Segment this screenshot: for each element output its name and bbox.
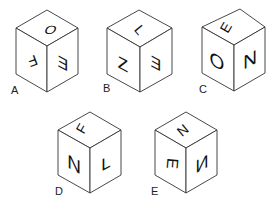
cube-a-label: A [11,84,19,96]
cube-e-left-letter: E [164,157,182,169]
cube-a: O F E A [11,10,78,96]
cube-e-label: E [151,185,158,197]
cube-b-label: B [103,82,110,94]
cube-e: N E N E [151,112,217,197]
cube-c-label: C [199,83,207,95]
cube-figure: O F E A L Z E B E O N C F N L D N [0,0,274,210]
cube-b: L Z E B [103,10,172,94]
cube-d: F N L D [55,112,121,197]
cube-d-label: D [55,185,63,197]
cube-c: E O N C [199,9,265,95]
